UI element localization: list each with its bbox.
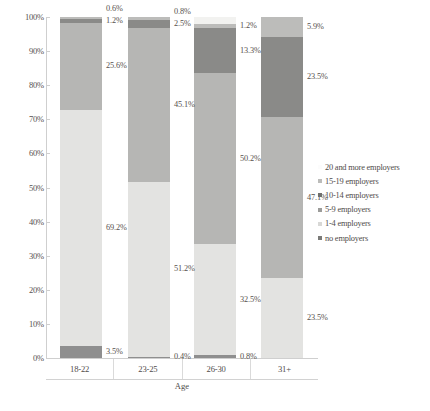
y-axis-tick-mark — [46, 222, 50, 223]
bar-segment[interactable] — [128, 182, 170, 357]
legend-swatch-icon — [318, 193, 322, 197]
y-axis-tick-mark — [46, 358, 50, 359]
x-axis-title: Age — [46, 381, 318, 391]
bar-26-30[interactable] — [194, 17, 236, 358]
bar-segment[interactable] — [194, 355, 236, 358]
bar-segment[interactable] — [128, 20, 170, 29]
bar-18-22[interactable] — [60, 17, 102, 358]
legend-item[interactable]: 15-19 employers — [318, 174, 430, 188]
y-axis-tick-label: 0% — [4, 353, 44, 363]
bar-segment[interactable] — [261, 117, 303, 278]
value-label: 0.6% — [106, 4, 123, 13]
value-label: 2.5% — [174, 19, 191, 28]
x-axis-categories: 18-2223-2526-3031+ — [46, 359, 318, 380]
value-label: 51.2% — [174, 264, 195, 273]
y-axis-tick-mark — [46, 256, 50, 257]
plot-area: 3.5%69.2%25.6%1.2%0.6%0.4%51.2%45.1%2.5%… — [46, 17, 318, 358]
x-axis-category-31+: 31+ — [251, 359, 318, 379]
bar-segment[interactable] — [60, 346, 102, 358]
value-label: 50.2% — [240, 154, 261, 163]
x-axis-category-23-25: 23-25 — [114, 359, 182, 379]
legend-item[interactable]: 5-9 employers — [318, 203, 430, 217]
value-label: 5.9% — [307, 22, 324, 31]
y-axis-tick-mark — [46, 324, 50, 325]
value-label: 3.5% — [106, 347, 123, 356]
legend-item[interactable]: 10-14 employers — [318, 188, 430, 202]
y-axis-tick-label: 90% — [4, 46, 44, 56]
bar-segment[interactable] — [128, 357, 170, 358]
y-axis-tick-label: 50% — [4, 183, 44, 193]
legend-item[interactable]: 20 and more employers — [318, 160, 430, 174]
y-axis-tick-label: 30% — [4, 251, 44, 261]
value-label: 1.2% — [106, 16, 123, 25]
bar-segment[interactable] — [261, 17, 303, 37]
y-axis-tick-labels: 0%10%20%30%40%50%60%70%80%90%100% — [0, 17, 44, 358]
y-axis-tick-mark — [46, 153, 50, 154]
bar-segment[interactable] — [60, 23, 102, 110]
legend-label: no employers — [325, 234, 368, 243]
legend-swatch-icon — [318, 208, 322, 212]
chart-legend: 20 and more employers15-19 employers10-1… — [318, 160, 430, 245]
stacked-bar-chart: 0%10%20%30%40%50%60%70%80%90%100% 3.5%69… — [0, 0, 430, 411]
bar-31+[interactable] — [261, 17, 303, 358]
value-label: 23.5% — [307, 313, 328, 322]
y-axis-tick-mark — [46, 85, 50, 86]
bar-segment[interactable] — [128, 28, 170, 182]
bar-segment[interactable] — [261, 37, 303, 117]
y-axis-tick-mark — [46, 188, 50, 189]
bar-segment[interactable] — [194, 244, 236, 355]
legend-swatch-icon — [318, 222, 322, 226]
y-axis-tick-label: 40% — [4, 217, 44, 227]
y-axis-tick-label: 20% — [4, 285, 44, 295]
bar-segment[interactable] — [194, 17, 236, 24]
y-axis-tick-mark — [46, 290, 50, 291]
legend-label: 20 and more employers — [325, 163, 400, 172]
y-axis-tick-label: 100% — [4, 12, 44, 22]
y-axis-tick-label: 60% — [4, 148, 44, 158]
legend-swatch-icon — [318, 165, 322, 169]
bar-segment[interactable] — [194, 28, 236, 73]
legend-label: 15-19 employers — [325, 177, 379, 186]
value-label: 69.2% — [106, 223, 127, 232]
x-axis-category-26-30: 26-30 — [183, 359, 251, 379]
y-axis-tick-mark — [46, 51, 50, 52]
legend-label: 5-9 employers — [325, 205, 371, 214]
value-label: 32.5% — [240, 295, 261, 304]
value-label: 13.3% — [240, 46, 261, 55]
legend-swatch-icon — [318, 179, 322, 183]
value-label: 45.1% — [174, 100, 195, 109]
legend-swatch-icon — [318, 236, 322, 240]
legend-label: 10-14 employers — [325, 191, 379, 200]
bar-segment[interactable] — [194, 73, 236, 244]
bar-23-25[interactable] — [128, 17, 170, 358]
x-axis-category-18-22: 18-22 — [46, 359, 114, 379]
value-label: 25.6% — [106, 61, 127, 70]
y-axis-tick-mark — [46, 119, 50, 120]
legend-item[interactable]: no employers — [318, 231, 430, 245]
value-label: 23.5% — [307, 72, 328, 81]
y-axis-tick-label: 10% — [4, 319, 44, 329]
value-label: 0.8% — [174, 7, 191, 16]
legend-label: 1-4 employers — [325, 219, 371, 228]
y-axis-tick-label: 80% — [4, 80, 44, 90]
legend-item[interactable]: 1-4 employers — [318, 217, 430, 231]
value-label: 1.2% — [240, 21, 257, 30]
bar-segment[interactable] — [60, 110, 102, 346]
y-axis-tick-label: 70% — [4, 114, 44, 124]
bar-segment[interactable] — [261, 278, 303, 358]
y-axis-tick-mark — [46, 17, 50, 18]
